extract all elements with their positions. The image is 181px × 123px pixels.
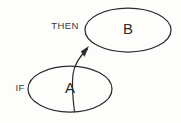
node-b-label: B [123,20,133,37]
node-b[interactable]: B [85,8,171,52]
diagram-svg: B A THEN IF [0,0,181,123]
rule-diagram-canvas: B A THEN IF [0,0,181,123]
then-label: THEN [51,20,78,31]
if-label: IF [15,82,24,93]
node-a[interactable]: A [28,66,112,112]
node-a-label: A [65,79,75,96]
